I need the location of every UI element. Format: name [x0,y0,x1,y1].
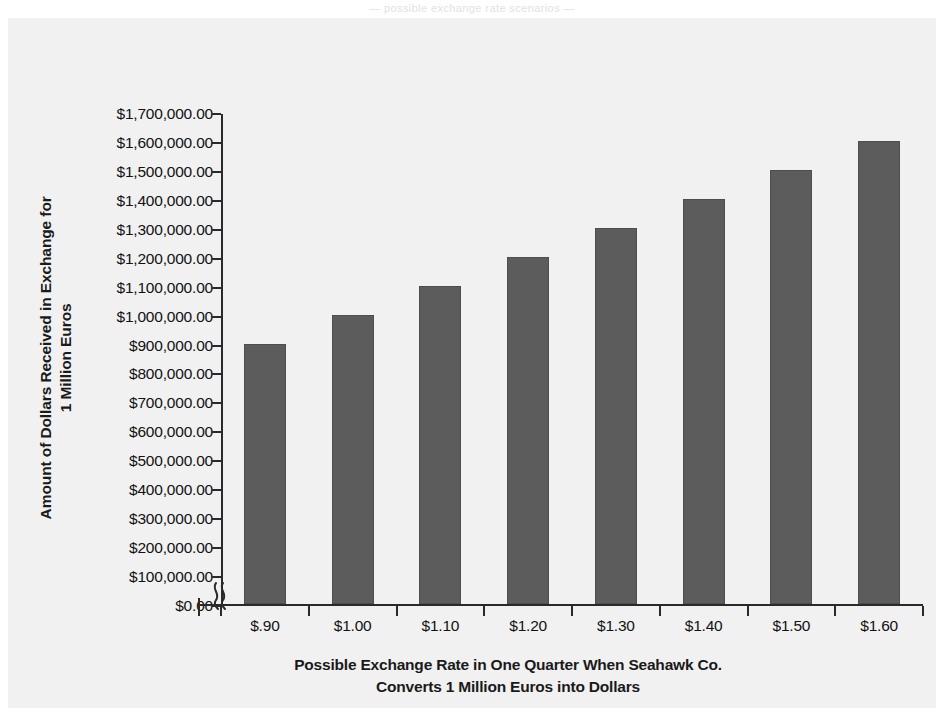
x-axis-line [198,604,923,606]
bar[interactable] [595,228,637,604]
y-axis-tick-label: $1,000,000.00 [68,309,213,325]
y-axis-tick-mark [212,229,221,231]
plot-area [221,114,923,606]
y-axis-tick-label: $1,700,000.00 [68,106,213,122]
y-axis-tick-label: $1,200,000.00 [68,251,213,267]
y-axis-tick-mark [212,113,221,115]
y-axis-tick-mark [212,345,221,347]
x-axis-tick-label: $.90 [250,618,279,634]
y-axis-tick-mark [212,518,221,520]
y-axis-tick-mark [212,316,221,318]
y-axis-tick-mark [212,460,221,462]
x-axis-origin-tick [198,598,200,616]
chart-plate: Amount of Dollars Received in Exchange f… [8,18,936,708]
y-axis-tick-label: $500,000.00 [68,454,213,470]
y-axis-tick-label: $600,000.00 [68,425,213,441]
y-axis-tick-mark [212,576,221,578]
y-axis-tick-mark [212,142,221,144]
y-axis-tick-mark [212,489,221,491]
x-axis-tick-label: $1.00 [334,618,372,634]
bar[interactable] [244,344,286,604]
y-axis-tick-label: $300,000.00 [68,511,213,527]
x-axis-tick-mark [922,606,924,616]
y-axis-tick-label: $800,000.00 [68,367,213,383]
y-axis-tick-label: $900,000.00 [68,338,213,354]
y-axis-title-line-1: Amount of Dollars Received in Exchange f… [36,128,56,588]
x-axis-tick-label: $1.30 [597,618,635,634]
bar[interactable] [419,286,461,604]
y-axis-line [221,114,223,606]
x-axis-tick-label: $1.40 [685,618,723,634]
bar[interactable] [507,257,549,604]
x-axis-title: Possible Exchange Rate in One Quarter Wh… [128,654,888,699]
bar[interactable] [858,141,900,604]
y-axis-tick-mark [212,547,221,549]
x-axis-title-line-1: Possible Exchange Rate in One Quarter Wh… [128,654,888,676]
y-axis-tick-label: $1,100,000.00 [68,280,213,296]
y-axis-tick-mark [212,373,221,375]
y-axis-tick-label: $1,600,000.00 [68,135,213,151]
x-axis-tick-mark [220,606,222,616]
y-axis-tick-mark [212,431,221,433]
y-axis-tick-label: $400,000.00 [68,482,213,498]
x-axis-tick-labels: $.90$1.00$1.10$1.20$1.30$1.40$1.50$1.60 [221,618,923,644]
x-axis-title-line-2: Converts 1 Million Euros into Dollars [128,676,888,698]
y-axis-tick-mark [212,200,221,202]
x-axis-tick-mark [571,606,573,616]
y-axis-tick-label: $700,000.00 [68,396,213,412]
x-axis-tick-label: $1.20 [509,618,547,634]
page-bleed-text: — possible exchange rate scenarios — [0,0,944,16]
y-axis-tick-label: $0.00 [68,598,213,614]
bar-chart-figure: — possible exchange rate scenarios — Amo… [0,0,944,723]
x-axis-tick-label: $1.60 [860,618,898,634]
x-axis-tick-mark [308,606,310,616]
y-axis-tick-label: $1,300,000.00 [68,222,213,238]
y-axis-tick-label: $1,500,000.00 [68,164,213,180]
x-axis-tick-mark [483,606,485,616]
y-axis-tick-mark [212,171,221,173]
bar[interactable] [683,199,725,604]
x-axis-tick-label: $1.50 [772,618,810,634]
x-axis-tick-mark [396,606,398,616]
x-axis-tick-mark [659,606,661,616]
x-axis-tick-mark [747,606,749,616]
x-axis-tick-label: $1.10 [421,618,459,634]
y-axis-tick-mark [212,287,221,289]
bar[interactable] [332,315,374,604]
y-axis-tick-label: $100,000.00 [68,569,213,585]
bar[interactable] [770,170,812,604]
y-axis-tick-mark [212,258,221,260]
y-axis-tick-mark [212,402,221,404]
y-axis-tick-label: $1,400,000.00 [68,193,213,209]
y-axis-tick-labels: $1,700,000.00$1,600,000.00$1,500,000.00$… [68,114,213,606]
y-axis-tick-label: $200,000.00 [68,540,213,556]
x-axis-tick-mark [834,606,836,616]
